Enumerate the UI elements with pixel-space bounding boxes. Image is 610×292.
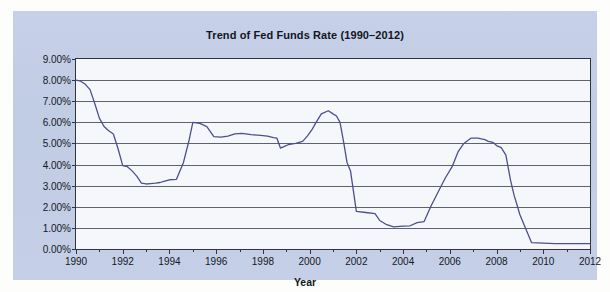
x-axis-minor-tick [146, 249, 147, 252]
x-axis-tick [356, 249, 357, 254]
x-axis-label: 2012 [579, 256, 601, 267]
y-axis-label: 3.00% [43, 180, 71, 191]
chart-screenshot: Trend of Fed Funds Rate (1990–2012) 0.00… [0, 0, 610, 292]
x-axis-label: 1998 [252, 256, 274, 267]
x-axis-tick [543, 249, 544, 254]
x-axis-label: 1992 [112, 256, 134, 267]
x-axis-tick [590, 249, 591, 254]
y-axis-label: 5.00% [43, 138, 71, 149]
series-line [76, 80, 590, 244]
x-axis-label: 2008 [485, 256, 507, 267]
x-axis-label: 2006 [439, 256, 461, 267]
y-axis-label: 8.00% [43, 75, 71, 86]
series-layer [76, 59, 590, 249]
y-axis-label: 0.00% [43, 244, 71, 255]
x-axis-tick [450, 249, 451, 254]
plot-area: 0.00%1.00%2.00%3.00%4.00%5.00%6.00%7.00%… [75, 58, 591, 250]
x-axis-tick [169, 249, 170, 254]
x-axis-minor-tick [193, 249, 194, 252]
x-axis-label: 2004 [392, 256, 414, 267]
x-axis-tick [123, 249, 124, 254]
x-axis-minor-tick [286, 249, 287, 252]
x-axis-minor-tick [333, 249, 334, 252]
x-axis-label: 1996 [205, 256, 227, 267]
x-axis-tick [76, 249, 77, 254]
x-axis-label: 1990 [65, 256, 87, 267]
x-axis-minor-tick [99, 249, 100, 252]
chart-panel: Trend of Fed Funds Rate (1990–2012) 0.00… [13, 11, 597, 280]
x-axis-tick [263, 249, 264, 254]
chart-title: Trend of Fed Funds Rate (1990–2012) [13, 29, 597, 41]
x-axis-title: Year [13, 276, 597, 288]
x-axis-minor-tick [380, 249, 381, 252]
x-axis-minor-tick [520, 249, 521, 252]
x-axis-tick [216, 249, 217, 254]
y-axis-label: 7.00% [43, 96, 71, 107]
x-axis-tick [403, 249, 404, 254]
x-axis-label: 2000 [299, 256, 321, 267]
x-axis-minor-tick [240, 249, 241, 252]
x-axis-tick [310, 249, 311, 254]
y-axis-label: 4.00% [43, 159, 71, 170]
y-axis-label: 1.00% [43, 222, 71, 233]
x-axis-minor-tick [567, 249, 568, 252]
x-axis-label: 1994 [158, 256, 180, 267]
x-axis-minor-tick [426, 249, 427, 252]
y-axis-label: 6.00% [43, 117, 71, 128]
x-axis-label: 2002 [345, 256, 367, 267]
x-axis-minor-tick [473, 249, 474, 252]
y-axis-label: 2.00% [43, 201, 71, 212]
x-axis-tick [497, 249, 498, 254]
x-axis-label: 2010 [532, 256, 554, 267]
y-axis-label: 9.00% [43, 54, 71, 65]
